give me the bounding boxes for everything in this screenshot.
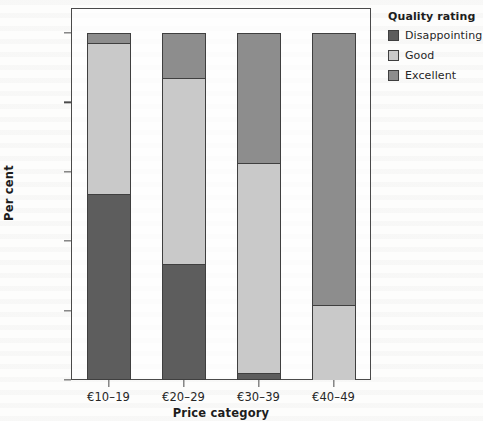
- plot-inner-area: [71, 33, 371, 380]
- x-axis-tick-label: €30–39: [237, 390, 280, 404]
- bar-segment-good[interactable]: [312, 305, 356, 380]
- y-axis-tick-mark: [64, 102, 71, 103]
- bar-segment-disappointing[interactable]: [237, 373, 281, 380]
- bar-stack[interactable]: [312, 33, 356, 380]
- y-axis-tick-mark: [64, 310, 71, 311]
- x-axis-tick-mark: [258, 380, 259, 387]
- bar-segment-excellent[interactable]: [312, 33, 356, 305]
- x-axis-tick-mark: [108, 380, 109, 387]
- legend-swatch-icon: [388, 50, 399, 61]
- bar-stack[interactable]: [87, 33, 131, 380]
- y-axis-tick-mark: [64, 379, 71, 380]
- stacked-bar-chart: 100%80%60%40%20%0% Per cent Price catego…: [0, 0, 483, 421]
- legend: Quality rating DisappointingGoodExcellen…: [386, 10, 481, 89]
- y-axis-tick-mark: [64, 241, 71, 242]
- x-axis-tick-mark: [183, 380, 184, 387]
- x-axis-tick-label: €20–29: [162, 390, 205, 404]
- legend-item-label: Excellent: [405, 69, 456, 82]
- bar-segment-good[interactable]: [87, 43, 131, 194]
- legend-swatch-icon: [388, 70, 399, 81]
- x-axis-tick-label: €10–19: [87, 390, 130, 404]
- bar-segment-excellent[interactable]: [162, 33, 206, 78]
- x-axis-tick-mark: [333, 380, 334, 387]
- bar-segment-excellent[interactable]: [237, 33, 281, 163]
- bar-segment-disappointing[interactable]: [162, 264, 206, 380]
- y-axis-tick-mark: [64, 171, 71, 172]
- bar-segment-good[interactable]: [162, 78, 206, 264]
- bar-segment-disappointing[interactable]: [87, 194, 131, 380]
- bar-segment-good[interactable]: [237, 163, 281, 373]
- bar-stack[interactable]: [162, 33, 206, 380]
- x-axis-title: Price category: [71, 406, 371, 420]
- legend-swatch-icon: [388, 30, 399, 41]
- legend-title: Quality rating: [388, 10, 481, 23]
- legend-items: DisappointingGoodExcellent: [386, 29, 481, 82]
- y-axis-title: Per cent: [2, 165, 16, 221]
- legend-item[interactable]: Disappointing: [388, 29, 481, 42]
- legend-item-label: Disappointing: [405, 29, 482, 42]
- bar-stack[interactable]: [237, 33, 281, 380]
- legend-item[interactable]: Good: [388, 49, 481, 62]
- x-axis-tick-label: €40–49: [312, 390, 355, 404]
- y-axis-tick-mark: [64, 32, 71, 33]
- legend-item[interactable]: Excellent: [388, 69, 481, 82]
- legend-item-label: Good: [405, 49, 434, 62]
- bar-segment-excellent[interactable]: [87, 33, 131, 43]
